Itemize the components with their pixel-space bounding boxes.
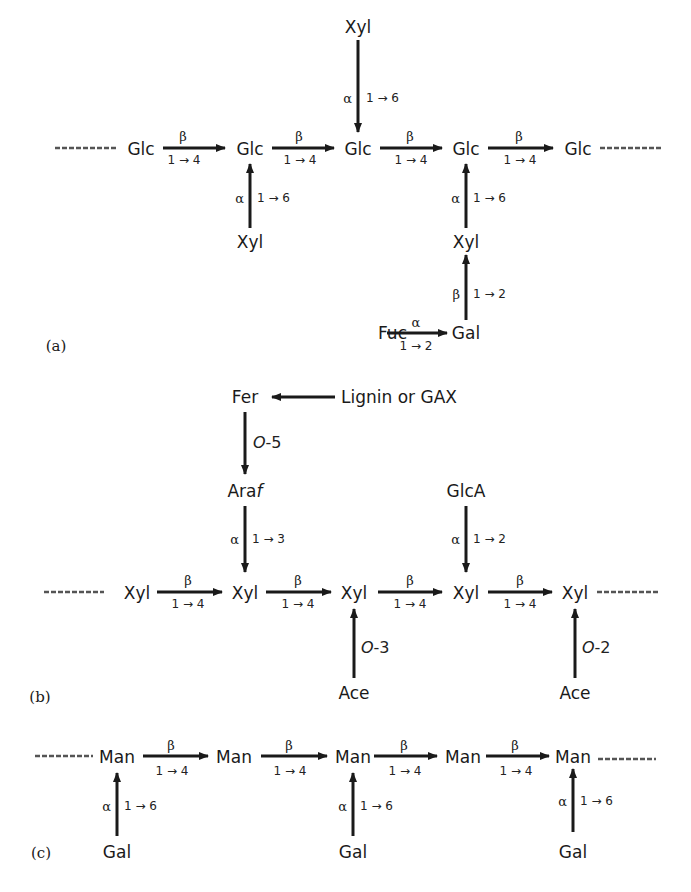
linkage-label: 1 → 2 xyxy=(473,288,506,300)
sugar-node-xyl: Xyl xyxy=(232,585,258,602)
acetyl-linkage-label: O-2 xyxy=(582,640,611,656)
sugar-node-gal: Gal xyxy=(559,844,587,861)
sugar-node-man: Man xyxy=(445,749,481,766)
sugar-node-xyl: Xyl xyxy=(341,585,367,602)
sugar-node-xyl: Xyl xyxy=(345,19,371,36)
linkage-label: 1 → 4 xyxy=(284,154,317,166)
sugar-node-glc: Glc xyxy=(236,141,263,158)
linkage-label: 1 → 3 xyxy=(252,533,285,545)
linkage-label: 1 → 6 xyxy=(257,192,290,204)
lignin-or-gax-node: Lignin or GAX xyxy=(341,389,457,406)
linkage-label: 1 → 4 xyxy=(274,765,307,777)
sugar-node-man: Man xyxy=(99,749,135,766)
linkage-label: 1 → 4 xyxy=(172,598,205,610)
linkage-label: 1 → 4 xyxy=(504,598,537,610)
position: -5 xyxy=(266,433,282,452)
anomer-label: β xyxy=(516,574,524,587)
anomer-label: α xyxy=(451,533,460,546)
o-atom: O xyxy=(253,433,266,452)
sugar-node-glc: Glc xyxy=(344,141,371,158)
anomer-label: β xyxy=(167,739,175,752)
linkage-label: 1 → 6 xyxy=(473,192,506,204)
sugar-node-fer: Fer xyxy=(232,389,258,406)
ester-linkage-label: O-5 xyxy=(253,435,282,451)
araf-prefix: Ara xyxy=(227,481,256,501)
linkage-label: 1 → 4 xyxy=(500,765,533,777)
linkage-label: 1 → 4 xyxy=(156,765,189,777)
anomer-label: β xyxy=(179,130,187,143)
anomer-label: β xyxy=(452,288,460,301)
anomer-label: β xyxy=(511,739,519,752)
sugar-node-xyl: Xyl xyxy=(237,234,263,251)
anomer-label: β xyxy=(285,739,293,752)
panel-label-c: (c) xyxy=(31,846,51,861)
sugar-node-glc: Glc xyxy=(564,141,591,158)
linkage-label: 1 → 4 xyxy=(168,154,201,166)
acetyl-node: Ace xyxy=(338,685,369,702)
sugar-node-glc: Glc xyxy=(127,141,154,158)
anomer-label: β xyxy=(406,574,414,587)
anomer-label: β xyxy=(515,130,523,143)
panel-label-b: (b) xyxy=(29,690,50,705)
araf-suffix: f xyxy=(257,481,263,501)
anomer-label: α xyxy=(230,533,239,546)
anomer-label: α xyxy=(412,316,421,329)
sugar-node-man: Man xyxy=(335,749,371,766)
acetyl-node: Ace xyxy=(559,685,590,702)
anomer-label: α xyxy=(102,800,111,813)
anomer-label: β xyxy=(406,130,414,143)
sugar-node-xyl: Xyl xyxy=(562,585,588,602)
anomer-label: α xyxy=(343,92,352,105)
sugar-node-man: Man xyxy=(216,749,252,766)
anomer-label: α xyxy=(451,192,460,205)
anomer-label: β xyxy=(294,574,302,587)
anomer-label: α xyxy=(338,800,347,813)
linkage-label: 1 → 6 xyxy=(124,800,157,812)
sugar-node-gal: Gal xyxy=(339,844,367,861)
panel-label-a: (a) xyxy=(46,339,67,354)
linkage-label: 1 → 4 xyxy=(282,598,315,610)
linkage-label: 1 → 4 xyxy=(389,765,422,777)
linkage-label: 1 → 4 xyxy=(395,154,428,166)
linkage-label: 1 → 2 xyxy=(400,340,433,352)
sugar-node-xyl: Xyl xyxy=(124,585,150,602)
o-atom: O xyxy=(361,638,374,657)
linkage-label: 1 → 6 xyxy=(580,795,613,807)
sugar-node-xyl: Xyl xyxy=(453,585,479,602)
anomer-label: β xyxy=(184,574,192,587)
anomer-label: α xyxy=(558,795,567,808)
anomer-label: β xyxy=(295,130,303,143)
position: -3 xyxy=(374,638,390,657)
o-atom: O xyxy=(582,638,595,657)
anomer-label: α xyxy=(235,192,244,205)
linkage-label: 1 → 4 xyxy=(394,598,427,610)
linkage-label: 1 → 4 xyxy=(504,154,537,166)
sugar-node-glc: Glc xyxy=(452,141,479,158)
linkage-label: 1 → 2 xyxy=(473,533,506,545)
sugar-node-glca: GlcA xyxy=(447,483,486,500)
position: -2 xyxy=(595,638,611,657)
sugar-node-gal: Gal xyxy=(103,844,131,861)
linkage-label: 1 → 6 xyxy=(366,92,399,104)
sugar-node-gal: Gal xyxy=(452,325,480,342)
polysaccharide-structure-figure: Xyl α 1 → 6 Glc Glc Glc Glc Glc β 1 → 4 … xyxy=(0,0,691,892)
sugar-node-xyl: Xyl xyxy=(453,234,479,251)
anomer-label: β xyxy=(400,739,408,752)
sugar-node-man: Man xyxy=(555,749,591,766)
acetyl-linkage-label: O-3 xyxy=(361,640,390,656)
linkage-label: 1 → 6 xyxy=(360,800,393,812)
sugar-node-araf: Araf xyxy=(227,483,262,500)
